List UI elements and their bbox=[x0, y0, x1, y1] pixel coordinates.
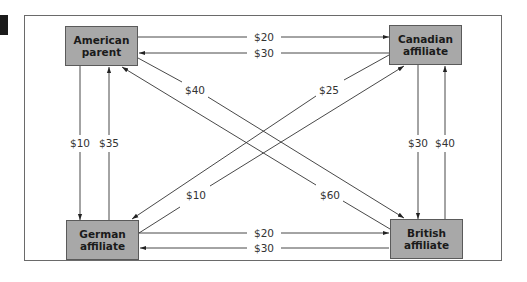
node-british-affiliate: British affiliate bbox=[390, 219, 463, 259]
node-label: American bbox=[74, 34, 130, 46]
node-canadian-affiliate: Canadian affiliate bbox=[389, 25, 462, 65]
node-label: affiliate bbox=[403, 45, 448, 57]
node-label: affiliate bbox=[404, 239, 449, 251]
node-label: British bbox=[407, 227, 446, 239]
diagram-canvas: $20 $30 $10 $35 $30 $40 $20 $30 $40 $60 … bbox=[0, 0, 527, 282]
flow-label: $35 bbox=[99, 137, 119, 149]
flow-label: $20 bbox=[254, 31, 274, 43]
node-label: German bbox=[79, 228, 125, 240]
flow-label: $40 bbox=[185, 84, 205, 96]
flow-label: $10 bbox=[70, 137, 90, 149]
flow-label: $40 bbox=[435, 137, 455, 149]
node-german-affiliate: German affiliate bbox=[66, 220, 139, 260]
flow-label: $60 bbox=[320, 189, 340, 201]
node-label: affiliate bbox=[80, 240, 125, 252]
node-american-parent: American parent bbox=[65, 26, 138, 66]
flow-label: $30 bbox=[408, 137, 428, 149]
flow-label: $30 bbox=[254, 47, 274, 59]
flow-label: $20 bbox=[254, 227, 274, 239]
node-label: Canadian bbox=[398, 33, 453, 45]
flow-label: $30 bbox=[254, 242, 274, 254]
node-label: parent bbox=[82, 46, 121, 58]
flow-label: $10 bbox=[186, 189, 206, 201]
flow-label: $25 bbox=[319, 84, 339, 96]
